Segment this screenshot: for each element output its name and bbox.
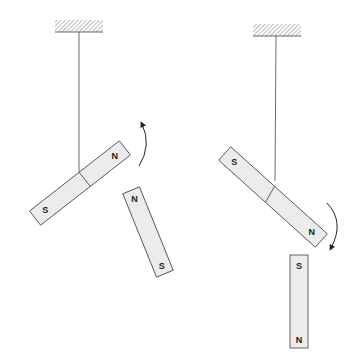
top-pole-label: S: [296, 261, 302, 271]
suspended-bar-magnet: N S: [30, 141, 131, 225]
south-pole-label: S: [159, 261, 165, 271]
ceiling-support: [55, 20, 103, 32]
magnet-diagram: N S N S S N S N: [0, 0, 357, 363]
south-pole-label: S: [42, 205, 48, 215]
north-pole-label: N: [131, 194, 138, 204]
right-panel: S N S N: [219, 24, 337, 348]
free-bar-magnet: S N: [290, 255, 308, 348]
north-pole-label: N: [111, 151, 118, 161]
suspension-string: [275, 36, 276, 181]
south-pole-label: S: [231, 157, 237, 167]
clockwise-arrow-icon: [327, 203, 337, 248]
suspended-bar-magnet: S N: [219, 147, 328, 247]
counterclockwise-arrow-icon: [139, 124, 146, 166]
north-pole-label: N: [308, 227, 315, 237]
ceiling-support: [253, 24, 301, 36]
free-bar-magnet: N S: [123, 187, 173, 277]
left-panel: N S N S: [30, 20, 174, 277]
bottom-pole-label: N: [296, 335, 303, 345]
